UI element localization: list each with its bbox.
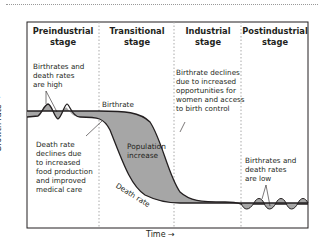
y-axis-label: Growth rate → (0, 95, 3, 152)
label-population-increase: Population increase (127, 142, 166, 160)
leader-birth (180, 122, 185, 132)
stage-preindustrial: Preindustrial stage (29, 26, 97, 47)
annotation-high-rates: Birthrates and death rates are high (33, 62, 84, 89)
leader-death (86, 121, 102, 136)
stage-postindustrial: Postindustrial stage (242, 26, 308, 47)
stage-industrial: Industrial stage (176, 26, 240, 47)
stage-transitional: Transitional stage (101, 26, 173, 47)
annotation-death-decline: Death rate declines due to increased foo… (36, 140, 93, 194)
leader-low-1 (262, 185, 266, 199)
label-birthrate: Birthrate (102, 100, 134, 109)
annotation-low-rates: Birthrates and death rates are low (245, 156, 296, 183)
postindustrial-waves (241, 199, 308, 210)
x-axis-label: Time → (146, 230, 175, 239)
annotation-birth-decline: Birthrate declines due to increased oppo… (176, 68, 245, 113)
